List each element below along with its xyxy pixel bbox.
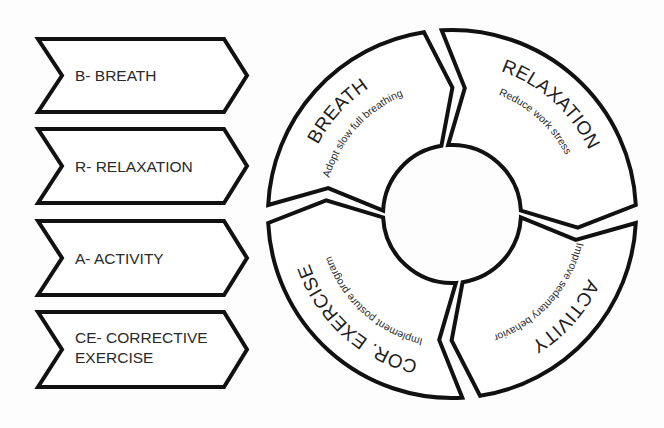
segment-corrective-exercise: COR. EXERCISE Implement posture program [268,200,462,398]
legend-chevron-relaxation: R- RELAXATION [38,129,247,203]
legend-label-breath: B- BREATH [75,67,157,84]
segment-activity: ACTIVITY Improve sedentary behavior [452,217,636,395]
legend-label-activity: A- ACTIVITY [75,250,164,267]
segment-shape [442,30,636,228]
segment-breath: BREATH Adopt slow full breathing [268,32,452,210]
legend-chevron-activity: A- ACTIVITY [38,221,247,295]
segment-shape [268,200,462,398]
legend-label-corrective-line1: CE- CORRECTIVE [75,329,208,346]
bace-diagram: B- BREATH R- RELAXATION A- ACTIVITY CE- … [0,0,664,428]
legend-label-relaxation: R- RELAXATION [75,158,193,175]
cycle-wheel: BREATH Adopt slow full breathing RELAXAT… [268,30,636,398]
legend-chevron-breath: B- BREATH [38,39,247,112]
legend-chevron-corrective-exercise: CE- CORRECTIVE EXERCISE [38,312,247,387]
segment-relaxation: RELAXATION Reduce work stress [442,30,636,228]
legend-label-corrective-line2: EXERCISE [75,349,153,366]
